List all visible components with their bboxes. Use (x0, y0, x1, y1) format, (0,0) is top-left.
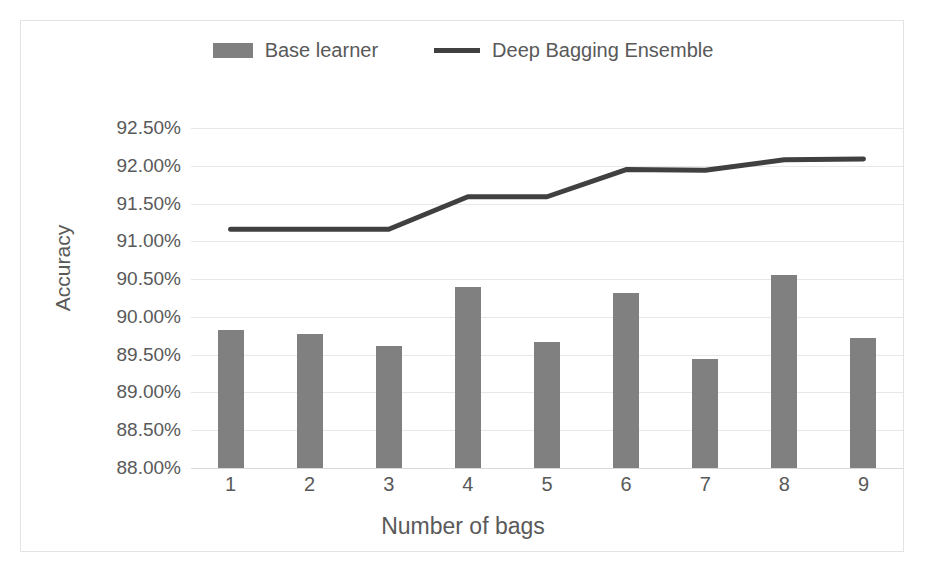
legend-label-base-learner: Base learner (265, 39, 378, 62)
legend-item-base-learner: Base learner (213, 39, 378, 62)
y-axis-tick-label: 89.50% (21, 344, 181, 366)
line-path (231, 159, 864, 229)
bar-swatch-icon (213, 43, 253, 58)
legend-label-deep-bagging-ensemble: Deep Bagging Ensemble (492, 39, 713, 62)
y-axis-tick-label: 92.00% (21, 155, 181, 177)
y-axis-tick-label: 89.00% (21, 381, 181, 403)
y-axis-tick-label: 91.00% (21, 230, 181, 252)
chart-container: Base learner Deep Bagging Ensemble 88.00… (20, 20, 904, 552)
y-axis-title: Accuracy (51, 198, 75, 338)
bar-base-learner (771, 275, 797, 468)
x-axis-tick-label: 1 (201, 473, 261, 496)
bar-base-learner (534, 342, 560, 468)
plot-area (191, 128, 903, 468)
y-axis-tick-label: 90.00% (21, 306, 181, 328)
bar-base-learner (850, 338, 876, 468)
x-axis-tick-label: 8 (754, 473, 814, 496)
line-swatch-icon (434, 48, 480, 53)
y-axis-tick-label: 92.50% (21, 117, 181, 139)
x-axis-tick-label: 2 (280, 473, 340, 496)
x-axis-tick-label: 6 (596, 473, 656, 496)
x-axis-tick-label: 7 (675, 473, 735, 496)
y-axis-tick-labels: 88.00%88.50%89.00%89.50%90.00%90.50%91.0… (21, 128, 181, 468)
bar-base-learner (218, 330, 244, 468)
y-axis-tick-label: 88.00% (21, 457, 181, 479)
x-axis-tick-label: 9 (833, 473, 893, 496)
x-axis-tick-labels: 123456789 (191, 473, 903, 505)
x-axis-title: Number of bags (21, 513, 905, 540)
bar-base-learner (692, 359, 718, 468)
x-axis-tick-label: 5 (517, 473, 577, 496)
bar-base-learner (297, 334, 323, 468)
x-axis-tick-label: 3 (359, 473, 419, 496)
bar-base-learner (613, 293, 639, 468)
y-axis-tick-label: 90.50% (21, 268, 181, 290)
legend-item-deep-bagging-ensemble: Deep Bagging Ensemble (434, 39, 713, 62)
bar-base-learner (455, 287, 481, 468)
bar-base-learner (376, 346, 402, 468)
chart-legend: Base learner Deep Bagging Ensemble (21, 39, 905, 62)
x-axis-line (191, 468, 903, 469)
y-axis-tick-label: 91.50% (21, 193, 181, 215)
y-axis-tick-label: 88.50% (21, 419, 181, 441)
x-axis-tick-label: 4 (438, 473, 498, 496)
